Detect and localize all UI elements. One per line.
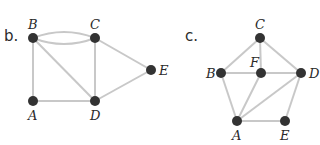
edge-d-a bbox=[237, 73, 301, 121]
label-f: F bbox=[249, 55, 260, 70]
graph-b: b. B C E A D bbox=[4, 17, 169, 123]
label-a: A bbox=[27, 108, 37, 123]
label-e: E bbox=[279, 128, 290, 143]
node-d bbox=[296, 68, 306, 78]
panel-label-c: c. bbox=[185, 27, 198, 45]
label-d: D bbox=[89, 108, 101, 123]
label-c: C bbox=[90, 17, 100, 32]
node-a bbox=[28, 96, 38, 106]
edge-c-d bbox=[260, 38, 301, 73]
node-b bbox=[216, 68, 226, 78]
edge-b-c-upper bbox=[33, 32, 95, 38]
node-e bbox=[146, 65, 156, 75]
edge-b-a bbox=[221, 73, 237, 121]
label-a: A bbox=[231, 128, 241, 143]
edge-d-e bbox=[95, 70, 151, 101]
node-c bbox=[255, 33, 265, 43]
node-e bbox=[280, 116, 290, 126]
graph-c: c. C B F D A E bbox=[185, 17, 320, 143]
label-d: D bbox=[308, 66, 320, 81]
node-a bbox=[232, 116, 242, 126]
graph-diagrams: b. B C E A D c. C bbox=[0, 0, 320, 145]
edge-f-a bbox=[237, 73, 261, 121]
panel-label-b: b. bbox=[4, 27, 18, 45]
label-e: E bbox=[158, 63, 169, 78]
label-b: B bbox=[205, 66, 216, 81]
edge-b-c-lower bbox=[33, 38, 95, 44]
node-c bbox=[90, 33, 100, 43]
edge-c-f bbox=[260, 38, 261, 73]
label-c: C bbox=[255, 17, 265, 32]
node-b bbox=[28, 33, 38, 43]
node-d bbox=[90, 96, 100, 106]
edge-c-e bbox=[95, 38, 151, 70]
edge-b-d bbox=[33, 38, 95, 101]
label-b: B bbox=[27, 17, 38, 32]
